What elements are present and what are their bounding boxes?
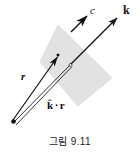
label-vector-c: c bbox=[90, 5, 95, 16]
origin-point bbox=[11, 119, 16, 124]
label-r-vector: r bbox=[60, 99, 65, 111]
label-vector-k: k bbox=[123, 4, 130, 16]
vector-c-line bbox=[71, 16, 87, 32]
projection-end-point bbox=[69, 64, 72, 67]
label-k-hat-letter: k bbox=[47, 99, 54, 111]
figure-container: c k r k̂·r 그림 9.11 bbox=[0, 0, 140, 155]
label-vector-r: r bbox=[21, 71, 25, 82]
label-k-hat: k̂ bbox=[47, 100, 54, 111]
figure-caption: 그림 9.11 bbox=[0, 133, 140, 148]
r-tip-point bbox=[57, 54, 60, 57]
label-vector-k-dot-r: k̂·r bbox=[47, 100, 65, 111]
